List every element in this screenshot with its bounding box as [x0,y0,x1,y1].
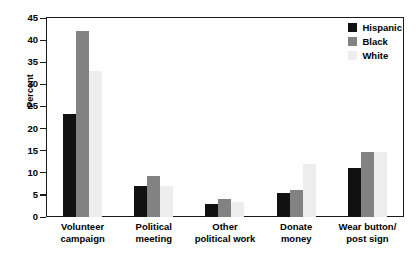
y-tick-mark [40,106,46,107]
y-tick: 35 [0,56,46,68]
bar-group [261,18,332,217]
bar-white [231,202,244,217]
y-tick-mark [40,62,46,63]
bar-black [147,176,160,217]
bar-hispanic [134,186,147,217]
y-tick-mark [40,194,46,195]
bar-black [218,199,231,217]
y-tick: 40 [0,34,46,46]
bar-hispanic [348,168,361,217]
y-tick-label: 35 [27,56,38,68]
legend-item: White [348,49,402,62]
y-tick-label: 30 [27,78,38,90]
bar-black [76,31,89,217]
y-tick-mark [40,128,46,129]
y-tick: 45 [0,12,46,24]
bar-white [160,186,173,217]
y-tick: 20 [0,123,46,135]
legend-swatch-white [348,51,357,60]
bar-group [47,18,118,217]
y-tick: 5 [0,189,46,201]
bar-white [89,71,102,217]
bar-group [189,18,260,217]
bar-hispanic [205,204,218,217]
y-tick-label: 15 [27,145,38,157]
bar-black [290,190,303,217]
legend-label: Hispanic [362,22,402,33]
y-tick-label: 20 [27,123,38,135]
y-tick: 25 [0,100,46,112]
y-tick-label: 40 [27,34,38,46]
x-axis-labels: Volunteer campaignPolitical meetingOther… [47,221,403,261]
y-tick-mark [40,172,46,173]
legend: HispanicBlackWhite [348,21,402,62]
y-axis-ticks: 051015202530354045 [0,0,46,234]
y-tick-mark [40,84,46,85]
y-tick-mark [40,40,46,41]
y-tick-mark [40,18,46,19]
bar-black [361,152,374,217]
y-tick-label: 10 [27,167,38,179]
bar-hispanic [277,193,290,217]
y-tick-label: 25 [27,100,38,112]
bar-chart: Percent 051015202530354045 Volunteer cam… [0,0,416,261]
legend-item: Black [348,35,402,48]
bar-white [374,152,387,217]
x-axis-label: Wear button/ post sign [318,221,416,244]
bar-white [303,164,316,217]
bar-group [118,18,189,217]
legend-item: Hispanic [348,21,402,34]
legend-label: White [362,50,388,61]
legend-label: Black [362,36,387,47]
y-tick: 10 [0,167,46,179]
y-tick: 30 [0,78,46,90]
legend-swatch-hispanic [348,23,357,32]
y-tick-mark [40,217,46,218]
y-tick-mark [40,150,46,151]
legend-swatch-black [348,37,357,46]
y-tick-label: 45 [27,12,38,24]
bar-hispanic [63,114,76,217]
y-tick: 15 [0,145,46,157]
y-tick-label: 5 [33,189,38,201]
